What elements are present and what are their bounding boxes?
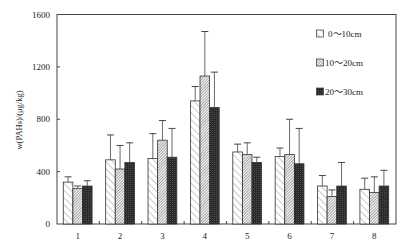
legend-label: 20～30cm [325, 87, 363, 97]
bar [106, 160, 116, 224]
x-tick-label: 7 [330, 231, 335, 241]
x-tick-label: 3 [160, 231, 165, 241]
legend-item: 10～20cm [317, 58, 364, 68]
legend-label: 10～20cm [325, 58, 363, 68]
bar [167, 157, 177, 224]
bar-group [148, 121, 177, 224]
legend-label: 0～10cm [328, 29, 362, 39]
bar [158, 140, 168, 224]
bar [125, 162, 135, 224]
bar [360, 189, 370, 224]
x-tick-label: 2 [118, 231, 123, 241]
bar [252, 162, 262, 224]
y-tick-label: 1200 [32, 62, 51, 72]
bar [63, 182, 73, 224]
legend-swatch-icon [317, 88, 324, 95]
bar-group [106, 135, 135, 224]
bar [294, 164, 304, 224]
bar-group [275, 119, 304, 224]
bar [148, 159, 158, 224]
legend-item: 20～30cm [317, 87, 364, 97]
bar [73, 189, 83, 224]
bar [82, 186, 92, 224]
bar [200, 76, 210, 224]
bar [210, 107, 220, 224]
bar [285, 155, 295, 224]
y-tick-label: 800 [37, 114, 51, 124]
bar [327, 197, 337, 224]
bar-group [233, 143, 262, 224]
bar [233, 152, 243, 224]
x-tick-label: 8 [372, 231, 377, 241]
bar [275, 157, 285, 224]
bar-group [318, 162, 347, 224]
legend: 0～10cm10～20cm20～30cm [317, 29, 364, 97]
y-tick-label: 400 [37, 167, 51, 177]
bar [115, 169, 125, 224]
x-tick-label: 1 [75, 231, 80, 241]
legend-swatch-icon [317, 30, 324, 37]
bar [370, 193, 380, 224]
bar [190, 101, 200, 224]
bar-chart: 040080012001600 12345678 w(PAHs)/(μg/kg)… [0, 0, 405, 250]
legend-swatch-icon [317, 59, 324, 66]
bar [379, 186, 389, 224]
bar [337, 186, 347, 224]
x-tick-label: 4 [203, 231, 208, 241]
bar-group [190, 32, 219, 224]
x-tick-label: 6 [287, 231, 292, 241]
y-tick-label: 1600 [32, 10, 51, 20]
x-tick-label: 5 [245, 231, 250, 241]
y-tick-label: 0 [46, 219, 51, 229]
y-axis-title: w(PAHs)/(μg/kg) [14, 90, 24, 149]
bar [242, 155, 252, 224]
bar-group [63, 177, 92, 224]
y-axis: 040080012001600 [32, 10, 60, 230]
bar-group [360, 170, 389, 224]
bar [318, 186, 328, 224]
legend-item: 0～10cm [317, 29, 362, 39]
